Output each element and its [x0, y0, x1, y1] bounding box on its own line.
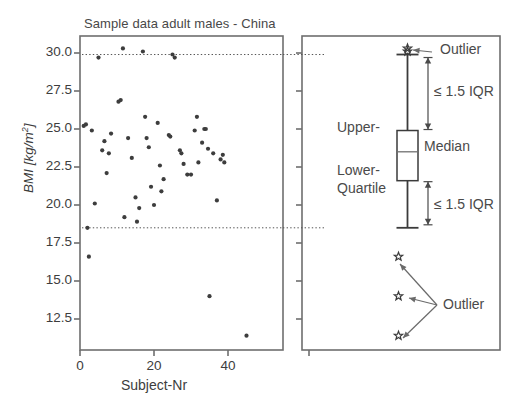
scatter-point [105, 171, 109, 175]
outlier-star-low-2 [394, 331, 402, 339]
outlier-star-low-0 [394, 252, 402, 260]
scatter-point [122, 215, 126, 219]
iqr-label-lower: ≤ 1.5 IQR [434, 196, 494, 212]
scatter-point [189, 173, 193, 177]
scatter-point [87, 255, 91, 259]
scatter-point [196, 160, 200, 164]
scatter-point [222, 160, 226, 164]
y-axis-unit-exponent: 2 [20, 127, 30, 132]
scatter-point [211, 151, 215, 155]
iqr-arrow-lower-head-top [425, 182, 431, 188]
boxplot-box [397, 131, 418, 181]
median-label: Median [424, 138, 470, 154]
scatter-point [133, 195, 137, 199]
scatter-point [173, 55, 177, 59]
scatter-point [179, 151, 183, 155]
scatter-point [162, 177, 166, 181]
scatter-point [126, 136, 130, 140]
y-axis-label-main: BMI [21, 169, 36, 193]
scatter-point [85, 226, 89, 230]
outlier-arrow-low-3 [403, 305, 437, 338]
y-axis-unit-close: ] [21, 123, 36, 127]
scatter-point [93, 201, 97, 205]
scatter-point [121, 46, 125, 50]
y-axis-unit: kg/m [21, 132, 36, 161]
outlier-star-low-1 [394, 292, 402, 300]
scatter-point [141, 49, 145, 53]
scatter-point [130, 156, 134, 160]
scatter-point [147, 145, 151, 149]
scatter-point [185, 173, 189, 177]
scatter-point [200, 141, 204, 145]
iqr-arrow-lower-head-bottom [425, 219, 431, 225]
x-axis-label: Subject-Nr [104, 377, 204, 393]
x-tick-label: 20 [136, 358, 172, 373]
scatter-point [159, 189, 163, 193]
scatter-point [193, 128, 197, 132]
y-axis-unit-open: [ [21, 162, 36, 170]
scatter-point [204, 127, 208, 131]
scatter-point [195, 115, 199, 119]
x-tick-label: 40 [210, 358, 246, 373]
scatter-point [137, 206, 141, 210]
scatter-point [215, 198, 219, 202]
x-tick-label: 0 [62, 358, 98, 373]
y-tick-label: 12.5 [22, 310, 72, 325]
y-tick-label: 17.5 [22, 234, 72, 249]
scatter-point [219, 157, 223, 161]
outlier-label-top: Outlier [440, 41, 481, 57]
y-axis-label: BMI [kg/m2] [20, 98, 37, 218]
scatter-point [84, 122, 88, 126]
scatter-point [96, 55, 100, 59]
scatter-point [182, 162, 186, 166]
scatter-point [149, 185, 153, 189]
scatter-point [145, 136, 149, 140]
scatter-point [90, 128, 94, 132]
scatter-point [100, 148, 104, 152]
lower-quartile-label-line2: Quartile [337, 180, 386, 196]
iqr-arrow-upper-head-bottom [425, 124, 431, 130]
scatter-point [158, 163, 162, 167]
outlier-arrow-low-1 [400, 264, 437, 305]
outlier-arrow-low-2-head [409, 297, 416, 303]
scatter-point [168, 135, 172, 139]
scatter-point [107, 151, 111, 155]
figure-root: Sample data adult males - China30.027.52… [0, 0, 513, 406]
iqr-arrow-upper-head-top [425, 58, 431, 64]
iqr-label-upper: ≤ 1.5 IQR [434, 83, 494, 99]
upper-quartile-label: Upper- [337, 119, 380, 135]
y-tick-label: 27.5 [22, 82, 72, 97]
scatter-point [207, 294, 211, 298]
scatter-point [102, 139, 106, 143]
scatter-panel-frame [80, 36, 283, 350]
scatter-point [119, 98, 123, 102]
y-tick-label: 30.0 [22, 44, 72, 59]
scatter-point [206, 147, 210, 151]
scatter-point [109, 131, 113, 135]
chart-title: Sample data adult males - China [84, 16, 276, 31]
scatter-point [244, 334, 248, 338]
scatter-point [143, 115, 147, 119]
scatter-point [152, 203, 156, 207]
y-tick-label: 15.0 [22, 272, 72, 287]
scatter-point [156, 121, 160, 125]
scatter-point [221, 153, 225, 157]
lower-quartile-label-line1: Lower- [337, 162, 380, 178]
scatter-point [135, 220, 139, 224]
outlier-label-bottom: Outlier [443, 296, 484, 312]
